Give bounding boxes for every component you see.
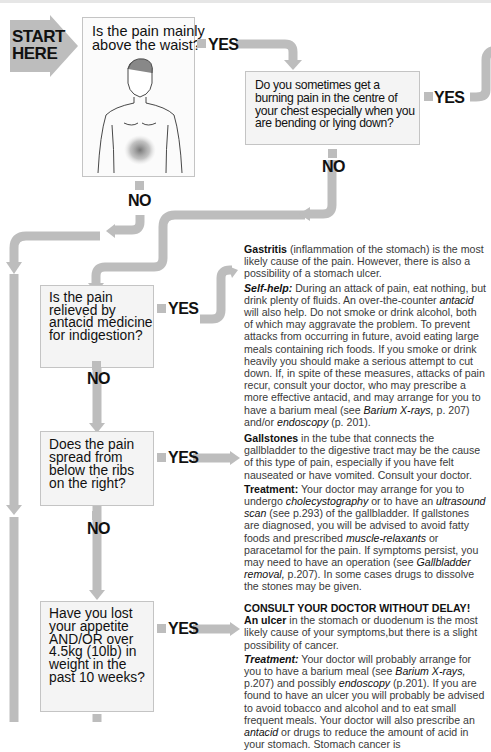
ref-barium-xrays: Barium X-rays,: [395, 665, 465, 677]
question-text-q4: Does the pain spread from below the ribs…: [49, 438, 134, 490]
q2-line: Do you sometimes get a: [255, 79, 415, 92]
gallstones-title: Gallstones: [244, 432, 298, 444]
no-label-q2: NO: [322, 158, 345, 176]
no-marker-q4: [92, 511, 101, 520]
start-line-2: HERE: [12, 45, 65, 62]
yes-label-q1: YES: [208, 36, 239, 54]
q1-line: Is the pain mainly: [92, 24, 205, 38]
yes-label-q5: YES: [168, 620, 199, 638]
no-marker-q1: [135, 181, 144, 190]
yes-marker-q2: [424, 92, 433, 101]
selfhelp-label: Self-help:: [244, 282, 292, 294]
gastritis-selfhelp: Self-help: During an attack of pain, eat…: [244, 282, 487, 428]
gallstones-intro: Gallstones in the tube that connects the…: [244, 432, 487, 481]
ref-cholecystography: cholecystography: [286, 495, 368, 507]
ulcer-treatment: Treatment: Your doctor will probably arr…: [244, 653, 487, 751]
yes-marker-q5: [157, 624, 166, 633]
question-text-q2: Do you sometimes get a burning pain in t…: [255, 79, 415, 130]
treatment-label: Treatment:: [244, 483, 298, 495]
no-marker-q2: [328, 149, 337, 158]
ref-barium-xrays: Barium X-rays,: [364, 404, 434, 416]
yes-label-q3: YES: [168, 300, 199, 318]
question-text-q3: Is the pain relieved by antacid medicine…: [49, 292, 153, 342]
gastritis-intro: Gastritis (inflammation of the stomach) …: [244, 243, 487, 280]
question-text-q5: Have you lost your appetite AND/OR over …: [49, 608, 145, 685]
q2-line: burning pain in the centre of: [255, 92, 415, 105]
ref-antacid: antacid: [244, 726, 278, 738]
gastritis-title: Gastritis: [244, 243, 287, 255]
q5-line: past 10 weeks?: [49, 672, 145, 685]
q3-line: for indigestion?: [49, 330, 153, 343]
treatment-text: or to have an: [368, 495, 436, 507]
no-label-q4: NO: [87, 520, 110, 538]
ref-endoscopy: endoscopy: [277, 416, 328, 428]
treatment-text: or drugs to reduce the amount of acid in…: [244, 726, 468, 750]
gallstones-treatment: Treatment: Your doctor may arrange for y…: [244, 483, 487, 593]
selfhelp-text: (p. 201).: [328, 416, 370, 428]
ref-muscle-relaxants: muscle-relaxants: [346, 532, 426, 544]
ulcer-title: An ulcer: [244, 614, 286, 626]
no-label-q1: NO: [128, 192, 151, 210]
question-text-q1: Is the pain mainly above the waist?: [92, 24, 205, 52]
q4-line: on the right?: [49, 477, 134, 490]
yes-marker-q3: [157, 304, 166, 313]
torso-illustration: [84, 55, 194, 175]
treatment-text: p.207) and possibly: [244, 677, 339, 689]
start-line-1: START: [12, 28, 65, 45]
q1-line: above the waist?: [92, 38, 205, 52]
gastritis-info: Gastritis (inflammation of the stomach) …: [244, 243, 487, 430]
ref-endoscopy: endoscopy: [339, 677, 390, 689]
yes-marker-q1: [197, 39, 206, 48]
no-marker-q3: [92, 361, 101, 370]
gallstones-info: Gallstones in the tube that connects the…: [244, 432, 487, 595]
start-here-label: START HERE: [12, 28, 65, 62]
q2-line: are bending or lying down?: [255, 117, 415, 130]
consult-doctor-headline: CONSULT YOUR DOCTOR WITHOUT DELAY!: [244, 602, 470, 614]
yes-marker-q4: [157, 453, 166, 462]
yes-label-q4: YES: [168, 449, 199, 467]
yes-label-q2: YES: [434, 89, 465, 107]
selfhelp-text: will also help. Do not smoke or drink al…: [244, 306, 485, 416]
ulcer-headline: CONSULT YOUR DOCTOR WITHOUT DELAY!: [244, 602, 487, 614]
treatment-label: Treatment:: [244, 653, 299, 665]
ulcer-intro: An ulcer in the stomach or duodenum is t…: [244, 614, 487, 651]
link-antacid: antacid: [440, 294, 474, 306]
no-label-q3: NO: [87, 370, 110, 388]
ulcer-info: CONSULT YOUR DOCTOR WITHOUT DELAY! An ul…: [244, 602, 487, 752]
